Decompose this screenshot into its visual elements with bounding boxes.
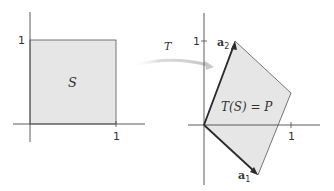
left-x-tick-label: 1: [113, 131, 120, 142]
transform-label: T: [164, 41, 171, 52]
region-p-label: T(S) = P: [221, 101, 272, 113]
vector-a1-label: a1: [238, 170, 250, 184]
vector-a2-label: a2: [217, 37, 229, 51]
right-x-tick-label: 1: [288, 131, 295, 142]
left-y-tick-label: 1: [18, 35, 25, 46]
right-y-tick-label: 1: [193, 36, 200, 47]
region-s-label: S: [68, 76, 77, 89]
vector-a2-subscript: 2: [224, 42, 229, 51]
right-plot: [188, 13, 320, 185]
vector-a1-subscript: 1: [245, 175, 250, 184]
left-plot: [13, 12, 145, 142]
transform-arrow: [132, 60, 214, 70]
diagram-canvas: [0, 0, 334, 191]
